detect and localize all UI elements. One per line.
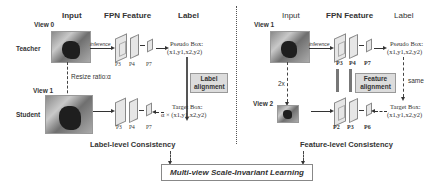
same-label: same [408, 77, 424, 84]
feature-alignment-line1: Feature [359, 75, 392, 83]
right-inference-arrow [309, 48, 330, 49]
fpn-plane-p3 [115, 33, 127, 63]
multi-view-learning-box: Multi-view Scale-Invariant Learning [161, 164, 313, 181]
level-p3-right: P3 [336, 60, 343, 66]
teacher-label: Teacher [16, 45, 40, 52]
right-inference-label: inference [309, 41, 330, 47]
left-view-top: View 0 [34, 21, 54, 28]
student-label: Student [16, 111, 40, 118]
left-header-input: Input [62, 11, 82, 20]
dash [139, 110, 144, 111]
level-p2-right: P2 [333, 124, 340, 130]
fpn-plane-p7 [147, 39, 153, 53]
right-pseudo-box-label: Pseudo Box: [390, 40, 423, 47]
left-target-box-label: Target Box: [172, 103, 203, 110]
fpn-plane-p3-right-bottom [349, 98, 358, 123]
resize-arrow [67, 62, 68, 98]
left-view-bottom: View 1 [33, 87, 53, 94]
inference-arrow [90, 48, 111, 49]
left-inference-label: inference [90, 41, 111, 47]
level-p6-right: P6 [364, 124, 371, 130]
left-header-label: Label [178, 11, 199, 20]
left-pseudo-box-label: Pseudo Box: [170, 40, 203, 47]
to-pseudo-arrow [156, 48, 165, 49]
level-p3-student: P3 [116, 124, 122, 130]
right-forward-arrow [311, 111, 330, 112]
label-alignment-line1: Label [194, 75, 224, 83]
dash [359, 45, 364, 46]
right-to-pseudo-arrow [374, 48, 383, 49]
left-target-box-coords: α × (x1,y1,x2,y2) [161, 111, 207, 118]
level-p4-student: P4 [129, 124, 135, 130]
right-view-bottom: View 2 [253, 100, 273, 107]
fpn-plane-p2-right [334, 97, 346, 127]
level-p3-right-bottom: P3 [347, 124, 354, 130]
fpn-plane-p3-right [334, 33, 346, 63]
level-p7: P7 [146, 61, 152, 67]
feature-alignment-line2: alignment [359, 83, 392, 91]
label-alignment-box: Label alignment [190, 73, 228, 93]
student-forward-arrow [93, 111, 111, 112]
same-arrow [403, 57, 404, 97]
fpn-plane-p4-right [349, 34, 358, 59]
right-view2-image [277, 105, 299, 123]
feature-level-consistency: Feature-level Consistency [300, 140, 393, 149]
label-level-consistency: Label-level Consistency [90, 140, 175, 149]
right-header-label: Label [394, 11, 414, 20]
student-input-image [45, 95, 93, 134]
level-p3: P3 [115, 61, 121, 67]
left-header-fpn: FPN Feature [104, 11, 151, 20]
fpn-plane-p7-right [366, 39, 372, 53]
panel-divider [236, 6, 237, 144]
dash [359, 110, 364, 111]
resize-ratio-label: Resize ratio:α [71, 73, 111, 80]
right-to-final-arrow [303, 151, 304, 161]
teacher-input-image [51, 31, 91, 63]
level-p7-student: P7 [146, 124, 152, 130]
right-view1-image [270, 31, 310, 63]
left-to-final-arrow [170, 151, 171, 161]
level-p7-right: P7 [364, 60, 371, 66]
dash [140, 45, 145, 46]
feature-align-arrow-p3 [336, 69, 339, 92]
level-p4: P4 [129, 61, 135, 67]
right-header-input: Input [282, 11, 300, 20]
feature-alignment-box: Feature alignment [355, 73, 396, 93]
right-target-box-coords: (x1,y1,x2,y2) [387, 111, 422, 118]
scale-2x-arrow [287, 62, 288, 102]
level-p4-right: P4 [349, 60, 356, 66]
right-header-fpn: FPN Feature [326, 11, 373, 20]
right-view-top: View 1 [254, 21, 274, 28]
right-target-to-fpn-arrow [375, 111, 387, 112]
left-pseudo-box-coords: (x1,y1,x2,y2) [167, 48, 202, 55]
fpn-plane-p3-student [115, 97, 126, 126]
fpn-plane-p4-student [129, 98, 138, 123]
right-target-box-label: Target Box: [390, 103, 421, 110]
scale-2x-label: 2x [278, 80, 285, 87]
fpn-plane-p4 [130, 34, 139, 59]
feature-align-arrow-p4 [349, 69, 352, 92]
label-alignment-line2: alignment [194, 83, 224, 91]
right-pseudo-box-coords: (x1,y1,x2,y2) [387, 48, 422, 55]
